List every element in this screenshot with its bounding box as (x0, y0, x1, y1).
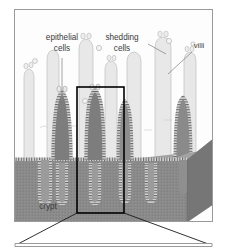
crypt-unit-1 (39, 160, 50, 204)
shed-cell-b1 (24, 63, 28, 69)
shed-cell-b9 (185, 46, 189, 51)
label-shedding-cells-line1: shedding (105, 33, 139, 42)
shed-cell-b6 (112, 55, 116, 60)
villus-crypt-unit-4 (118, 101, 132, 202)
free-shed-cell-5 (83, 99, 88, 104)
villus-back-1 (24, 69, 34, 160)
label-shedding-cells-line2: cells (114, 44, 130, 53)
shed-cell-b3 (81, 33, 85, 39)
villus-crypt-unit-5 (146, 163, 155, 202)
shed-cell-b7 (158, 31, 162, 37)
free-shed-cell-2 (96, 45, 101, 50)
villus-tip-bud-2b (63, 86, 67, 92)
crypt-lumen-4 (121, 163, 129, 201)
crypt-lumen-2 (58, 163, 66, 203)
figure-root: epithelial cells shedding cells villi cr… (0, 0, 227, 247)
free-shed-cell-1 (33, 59, 38, 64)
label-epithelial-cells-line1: epithelial (46, 33, 78, 42)
shed-cell-b2 (29, 62, 33, 68)
label-epithelial-cells-line2: cells (54, 44, 70, 53)
crypt-lumen-6 (179, 160, 187, 195)
label-villi: villi (194, 41, 205, 50)
shed-cell-b8 (164, 31, 168, 37)
villus-back-4 (105, 61, 117, 160)
intestinal-villi-diagram: epithelial cells shedding cells villi cr… (0, 0, 227, 247)
label-crypt: crypt (39, 202, 57, 211)
crypt-lumen-3 (91, 163, 99, 203)
shed-cell-b4 (87, 33, 91, 39)
villus-tip-bud-2a (57, 86, 61, 92)
crypt-lumen-5 (147, 163, 155, 201)
villus-back-6 (155, 37, 171, 160)
shed-cell-b5 (107, 55, 111, 60)
lower-panel-frame (15, 244, 212, 247)
crypt-lumen-1 (40, 160, 50, 203)
free-shed-cell-3 (166, 38, 171, 43)
